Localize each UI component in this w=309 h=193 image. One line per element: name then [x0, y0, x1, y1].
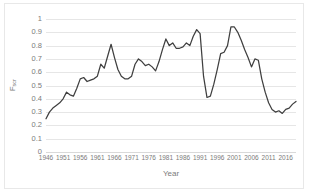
x-axis-tick-labels: 1946195119561961196619711976198119861991…: [46, 155, 296, 167]
x-axis-tick-label: 1946: [39, 155, 53, 162]
x-axis-tick-label: 1966: [107, 155, 121, 162]
x-axis-tick-label: 2001: [227, 155, 241, 162]
y-axis-tick-label: 0.1: [32, 135, 42, 143]
y-axis-tick-label: 0.4: [32, 95, 42, 103]
gridline: [46, 152, 296, 153]
x-axis-tick-label: 1996: [210, 155, 224, 162]
x-axis-tick-label: 1986: [176, 155, 190, 162]
y-axis-tick-label: 0.5: [32, 82, 42, 90]
x-axis-tick-label: 1956: [73, 155, 87, 162]
x-axis-tick-label: 2011: [262, 155, 276, 162]
y-axis-tick-label: 1: [38, 15, 42, 23]
x-axis-tick-label: 1971: [124, 155, 138, 162]
x-axis-tick-label: 1981: [159, 155, 173, 162]
x-axis-tick-label: 1976: [142, 155, 156, 162]
plot-area: [46, 19, 296, 152]
x-axis-tick-label: 1961: [90, 155, 104, 162]
y-axis-tick-label: 0.8: [32, 42, 42, 50]
x-axis-tick-label: 2006: [244, 155, 258, 162]
x-axis-tick-label: 2016: [278, 155, 292, 162]
chart-container: Fscr 10.90.80.70.60.50.40.30.20.10 19461…: [4, 3, 304, 189]
y-axis-tick-labels: 10.90.80.70.60.50.40.30.20.10: [5, 4, 46, 190]
y-axis-tick-label: 0.2: [32, 122, 42, 130]
x-axis-tick-label: 1951: [56, 155, 70, 162]
data-series-line: [46, 19, 296, 152]
y-axis-tick-label: 0.9: [32, 29, 42, 37]
y-axis-tick-label: 0.6: [32, 68, 42, 76]
x-axis-title: Year: [46, 170, 296, 178]
series-polyline: [46, 27, 296, 119]
x-axis-tick-label: 1991: [193, 155, 207, 162]
y-axis-tick-label: 0.3: [32, 108, 42, 116]
y-axis-tick-label: 0.7: [32, 55, 42, 63]
